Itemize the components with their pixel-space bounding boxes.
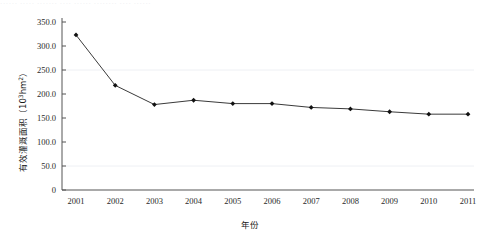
x-tick-label: 2009 bbox=[381, 196, 398, 206]
data-point-marker bbox=[270, 101, 275, 106]
y-tick-label: 100.0 bbox=[37, 137, 56, 147]
x-tick-label: 2006 bbox=[264, 196, 281, 206]
data-point-marker bbox=[309, 105, 314, 110]
data-point-marker bbox=[348, 106, 353, 111]
y-tick-label: 50.0 bbox=[41, 161, 56, 171]
y-tick-label: 250.0 bbox=[37, 65, 56, 75]
y-tick-label: 0 bbox=[52, 185, 56, 195]
x-tick-label: 2004 bbox=[185, 196, 203, 206]
y-tick-label: 350.0 bbox=[37, 17, 56, 27]
x-tick-label: 2008 bbox=[342, 196, 359, 206]
series-markers bbox=[74, 33, 471, 117]
x-tick-label: 2001 bbox=[68, 196, 85, 206]
x-tick-label: 2011 bbox=[460, 196, 477, 206]
y-tick-labels: 050.0100.0150.0200.0250.0300.0350.0 bbox=[37, 17, 56, 195]
x-tick-label: 2007 bbox=[303, 196, 320, 206]
x-tick-label: 2002 bbox=[107, 196, 124, 206]
x-tick-label: 2003 bbox=[146, 196, 163, 206]
data-point-marker bbox=[230, 101, 235, 106]
y-axis-title: 有效灌溉面积（103hm2） bbox=[17, 68, 28, 172]
gridlines bbox=[62, 70, 474, 166]
chart-svg: 050.0100.0150.0200.0250.0300.0350.0 2001… bbox=[0, 0, 485, 241]
data-point-marker bbox=[387, 109, 392, 114]
x-tick-label: 2005 bbox=[224, 196, 241, 206]
y-tick-label: 300.0 bbox=[37, 41, 56, 51]
x-axis-title: 年份 bbox=[241, 220, 259, 230]
x-tick-labels: 2001200220032004200520062007200820092010… bbox=[68, 196, 477, 206]
data-point-marker bbox=[426, 112, 431, 117]
svg-text:有效灌溉面积（103hm2）: 有效灌溉面积（103hm2） bbox=[17, 68, 28, 172]
x-tick-label: 2010 bbox=[420, 196, 437, 206]
y-tick-marks bbox=[62, 22, 66, 190]
y-tick-label: 200.0 bbox=[37, 89, 56, 99]
data-point-marker bbox=[152, 102, 157, 107]
line-chart: 050.0100.0150.0200.0250.0300.0350.0 2001… bbox=[0, 0, 485, 241]
data-point-marker bbox=[466, 112, 471, 117]
data-point-marker bbox=[191, 98, 196, 103]
y-tick-label: 150.0 bbox=[37, 113, 56, 123]
